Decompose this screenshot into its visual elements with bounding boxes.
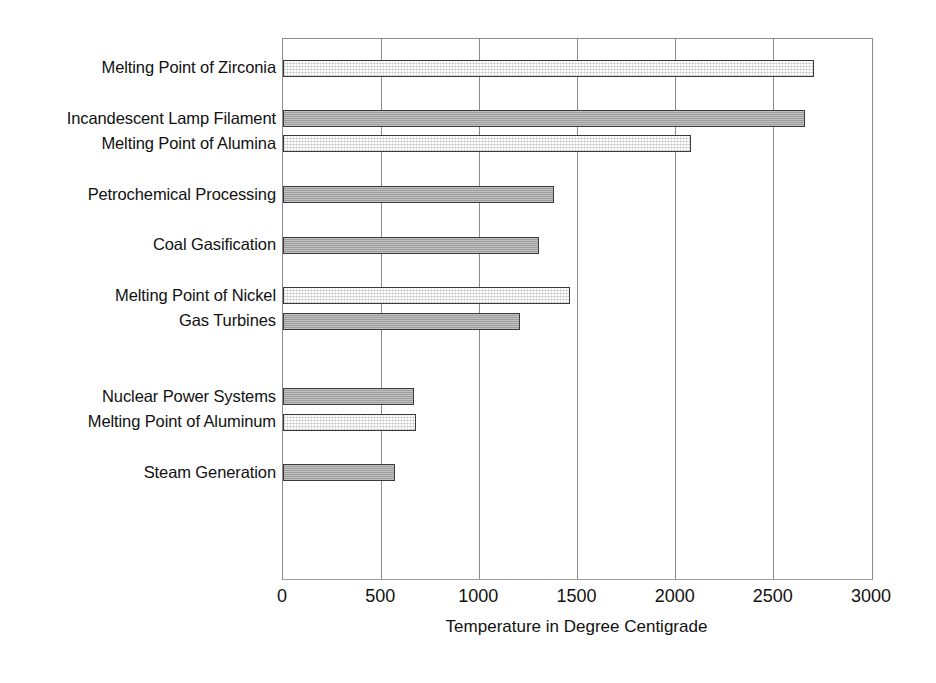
category-label: Gas Turbines <box>179 311 276 329</box>
bar <box>283 313 520 330</box>
category-label: Petrochemical Processing <box>88 185 276 203</box>
bar <box>283 388 414 405</box>
x-axis-tick-label: 2000 <box>655 585 695 607</box>
x-axis-title: Temperature in Degree Centigrade <box>282 617 871 637</box>
x-axis-tick-label: 500 <box>365 585 395 607</box>
category-label: Melting Point of Zirconia <box>102 58 277 76</box>
bar <box>283 186 554 203</box>
category-label: Incandescent Lamp Filament <box>67 109 276 127</box>
category-label: Steam Generation <box>144 463 276 481</box>
bar <box>283 60 814 77</box>
x-axis-tick-label: 1500 <box>556 585 596 607</box>
x-axis-tick-label: 2500 <box>753 585 793 607</box>
category-label: Melting Point of Nickel <box>115 286 276 304</box>
bar <box>283 237 539 254</box>
category-label: Melting Point of Aluminum <box>88 412 276 430</box>
category-label: Coal Gasification <box>153 235 276 253</box>
bar <box>283 287 570 304</box>
x-axis-tick-label: 0 <box>277 585 287 607</box>
category-label: Nuclear Power Systems <box>102 387 276 405</box>
x-axis-tick-label: 1000 <box>458 585 498 607</box>
bar <box>283 464 395 481</box>
bar <box>283 110 805 127</box>
category-label-column: Melting Point of ZirconiaIncandescent La… <box>0 0 276 683</box>
bar <box>283 135 691 152</box>
x-axis-tick-label: 3000 <box>851 585 891 607</box>
bar <box>283 414 416 431</box>
category-label: Melting Point of Alumina <box>101 134 276 152</box>
bar-chart: Melting Point of ZirconiaIncandescent La… <box>0 0 936 683</box>
plot-area <box>282 38 873 580</box>
